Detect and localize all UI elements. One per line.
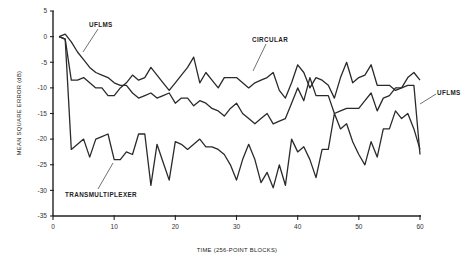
series-line-circular (59, 37, 420, 99)
annotation-uflms-left: UFLMS (89, 21, 113, 28)
series-line-uflms (59, 34, 420, 154)
y-tick-label: -30 (38, 187, 48, 194)
y-tick-label: 0 (43, 33, 47, 40)
annotation-transmultiplexer-arrow (98, 163, 113, 189)
y-tick-label: 5 (43, 7, 47, 14)
x-ticks: 0102030405060 (51, 215, 424, 230)
series-lines (59, 34, 420, 188)
y-axis-label: MEAN SQUARE ERROR (dB) (16, 71, 22, 156)
x-tick-label: 10 (111, 223, 119, 230)
y-tick-label: -35 (38, 212, 48, 219)
x-tick-label: 20 (172, 223, 180, 230)
y-tick-label: -5 (41, 59, 47, 66)
annotation-uflms-right: UFLMS (437, 89, 461, 96)
y-ticks: 50-5-10-15-20-25-30-35 (38, 7, 54, 219)
y-tick-label: -25 (38, 161, 48, 168)
annotation-transmultiplexer: TRANSMULTIPLEXER (65, 191, 137, 198)
x-axis-label: TIME (256-POINT BLOCKS) (197, 247, 278, 253)
annotation-uflms-left-arrow (83, 29, 98, 52)
x-tick-label: 40 (294, 223, 302, 230)
annotations: UFLMS CIRCULAR UFLMS TRANSMULTIPLEXER (65, 21, 461, 198)
annotation-circular: CIRCULAR (252, 36, 288, 43)
annotation-uflms-right-arrow (420, 94, 436, 104)
x-tick-label: 60 (416, 223, 424, 230)
annotation-circular-arrow (253, 44, 266, 71)
mse-line-chart: MEAN SQUARE ERROR (dB) TIME (256-POINT B… (0, 0, 473, 261)
y-tick-label: -20 (38, 135, 48, 142)
series-line-transmultiplexer (59, 37, 420, 188)
x-tick-label: 50 (355, 223, 363, 230)
x-tick-label: 0 (51, 223, 55, 230)
y-axis-title: MEAN SQUARE ERROR (dB) (16, 71, 22, 156)
y-tick-label: -15 (38, 110, 48, 117)
y-tick-label: -10 (38, 84, 48, 91)
x-tick-label: 30 (233, 223, 241, 230)
axes (53, 11, 421, 216)
